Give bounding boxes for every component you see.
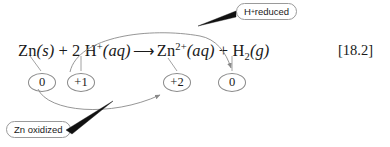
reactant-hydrogen-symbol: H — [85, 41, 97, 60]
callout-pointer-oxidized — [66, 101, 113, 134]
callout-hydrogen-reduced: H+ reduced — [236, 3, 297, 20]
callout-reduced-species: H — [244, 6, 251, 17]
callout-zinc-oxidized: Zn oxidized — [6, 121, 71, 138]
oxidation-number-zinc-product: +2 — [163, 73, 191, 92]
equation-plus-left: + — [54, 41, 72, 60]
product-zinc-charge: 2+ — [175, 41, 186, 52]
reaction-arrow-icon: ⟶ — [131, 42, 157, 60]
equation-plus-right: + — [215, 41, 233, 60]
product-hydrogen-state: (g) — [250, 41, 270, 60]
chemical-equation: Zn(s) + 2 H+(aq)⟶Zn2+(aq) + H2(g) — [18, 41, 269, 61]
equation-number: [18.2] — [338, 42, 373, 59]
oxidation-number-hydrogen-reactant: +1 — [67, 73, 95, 92]
reactant-hydrogen-state: (aq) — [103, 41, 131, 60]
oxidation-number-zinc-reactant: 0 — [28, 73, 56, 92]
product-zinc-state: (aq) — [187, 41, 215, 60]
oxidation-number-hydrogen-product: 0 — [218, 73, 246, 92]
callout-pointer-reduced — [198, 11, 236, 26]
product-hydrogen-symbol: H — [232, 41, 244, 60]
reactant-zinc-symbol: Zn — [18, 41, 37, 60]
callout-reduced-label: reduced — [255, 6, 289, 17]
redox-oxidation-number-figure: Zn(s) + 2 H+(aq)⟶Zn2+(aq) + H2(g) [18.2]… — [0, 0, 390, 147]
hydrogen-coefficient: 2 — [72, 41, 85, 60]
product-zinc-symbol: Zn — [157, 41, 176, 60]
reactant-zinc-state: (s) — [37, 41, 55, 60]
oxidation-arrow — [38, 89, 160, 110]
